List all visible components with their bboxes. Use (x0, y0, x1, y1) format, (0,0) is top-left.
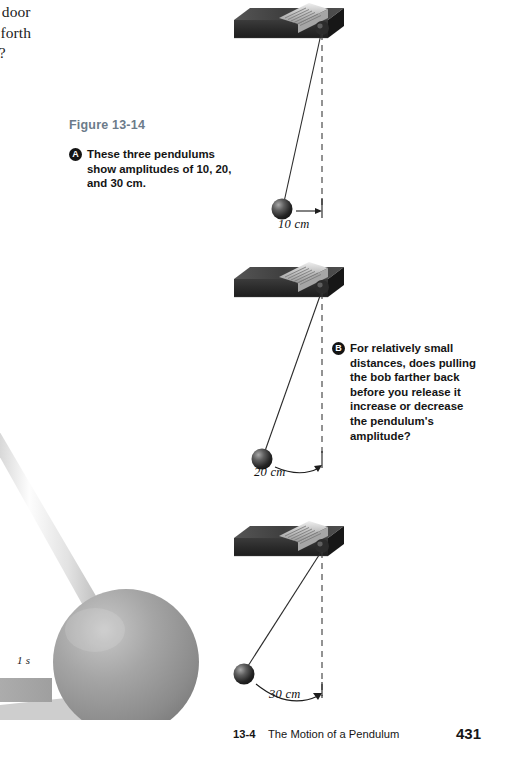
time-interval-label: 1 s (17, 654, 30, 666)
amplitude-arrow (296, 208, 322, 214)
pivot-knob (315, 21, 329, 35)
figure-label: Figure 13-14 (69, 118, 145, 132)
caption-a-text: These three pendulums show amplitudes of… (87, 147, 244, 191)
caption-bullet-a-icon: A (69, 148, 82, 161)
pendulum-string (265, 293, 321, 451)
pendulum-bob (234, 664, 255, 685)
figure-caption-a: A These three pendulums show amplitudes … (69, 147, 244, 191)
body-copy-line-1: nging door (0, 2, 152, 23)
pendulum-sphere (53, 589, 199, 720)
pendulum-string (248, 552, 321, 666)
footer-page-number: 431 (456, 725, 481, 742)
body-copy-paragraph: nging door k and forth conds? (0, 2, 152, 64)
pivot-knob (315, 539, 329, 553)
amplitude-arrowhead (314, 465, 322, 472)
body-copy-line-3: conds? (0, 43, 152, 64)
pendulum-apparatus-1: 10 cm (224, 6, 444, 236)
footer-section-number: 13-4 (233, 728, 255, 740)
pendulum-string (284, 34, 321, 202)
amplitude-label-2: 20 cm (254, 465, 286, 480)
page-footer: 13-4 The Motion of a Pendulum 431 (0, 728, 507, 750)
amplitude-label-3: 30 cm (269, 687, 301, 702)
pendulum-apparatus-3: 30 cm (224, 524, 444, 754)
textbook-page: nging door k and forth conds? Figure 13-… (0, 0, 507, 760)
large-pendulum-illustration (0, 390, 230, 720)
amplitude-label-1: 10 cm (278, 217, 310, 232)
pendulum-apparatus-2: 20 cm (224, 265, 444, 495)
body-copy-line-2: k and forth (0, 23, 152, 44)
pivot-knob (315, 280, 329, 294)
footer-section-title: The Motion of a Pendulum (268, 728, 399, 740)
amplitude-arrowhead (313, 693, 322, 700)
